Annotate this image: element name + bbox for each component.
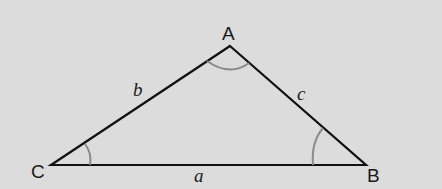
vertex-label-c: C <box>31 161 45 182</box>
vertex-label-a: A <box>222 23 235 44</box>
triangle-svg: A B C a b c <box>0 0 442 189</box>
triangle-abc <box>51 46 366 165</box>
side-label-b: b <box>133 79 143 100</box>
vertex-label-b: B <box>367 165 380 186</box>
angle-arc-a <box>207 61 249 70</box>
triangle-diagram: A B C a b c <box>0 0 442 189</box>
angle-arc-b <box>313 128 323 165</box>
side-label-a: a <box>194 165 204 186</box>
angle-arc-c <box>85 144 90 165</box>
side-label-c: c <box>297 83 306 104</box>
